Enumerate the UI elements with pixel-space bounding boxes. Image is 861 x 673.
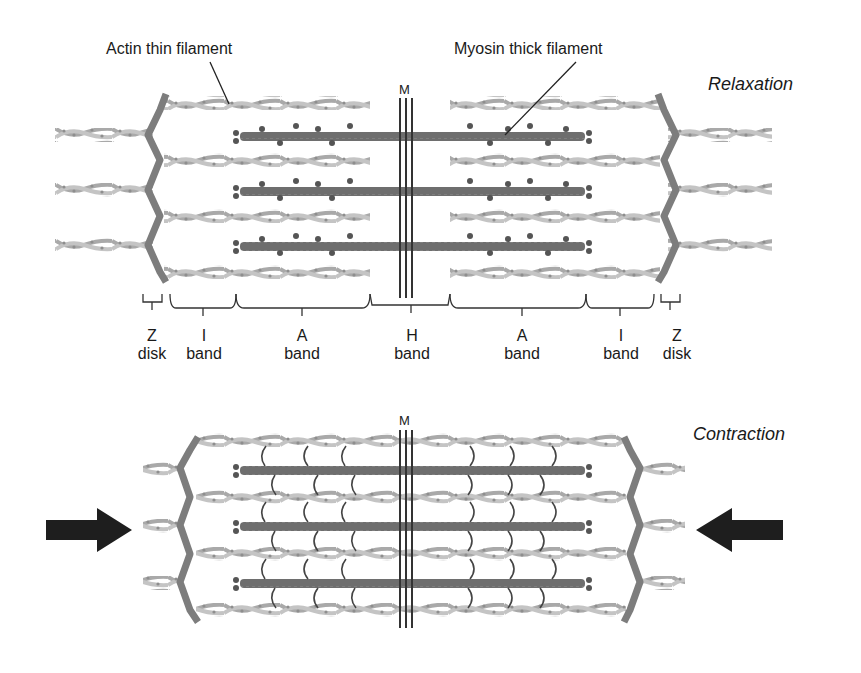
outer-actin-left-contracted [143,462,181,590]
outer-actin-left [55,128,153,252]
band-label-z-right: Zdisk [647,327,707,363]
band-label-z-left: Zdisk [122,327,182,363]
band-label-a-right: Aband [492,327,552,363]
z-disk-right-contracted [624,437,640,622]
band-label-i-left: Iband [174,327,234,363]
relaxation-label: Relaxation [708,74,793,95]
band-label-i-right: Iband [591,327,651,363]
z-disk-right [658,94,676,282]
outer-actin-right [668,128,772,252]
arrow-left-icon [696,508,783,552]
actin-callout-label: Actin thin filament [106,40,232,58]
arrow-right-icon [46,508,132,552]
contraction-label: Contraction [693,424,785,445]
relaxation-panel [55,62,772,316]
m-line [400,98,412,298]
z-disk-left [148,94,166,282]
m-line-label: M [399,82,410,97]
m-line-label-contracted: M [399,413,410,428]
contraction-panel [46,430,783,628]
band-label-h: Hband [382,327,442,363]
z-disk-left-contracted [180,437,198,622]
outer-actin-right-contracted [640,462,685,590]
band-label-a-left: Aband [272,327,332,363]
myosin-callout-label: Myosin thick filament [454,40,603,58]
